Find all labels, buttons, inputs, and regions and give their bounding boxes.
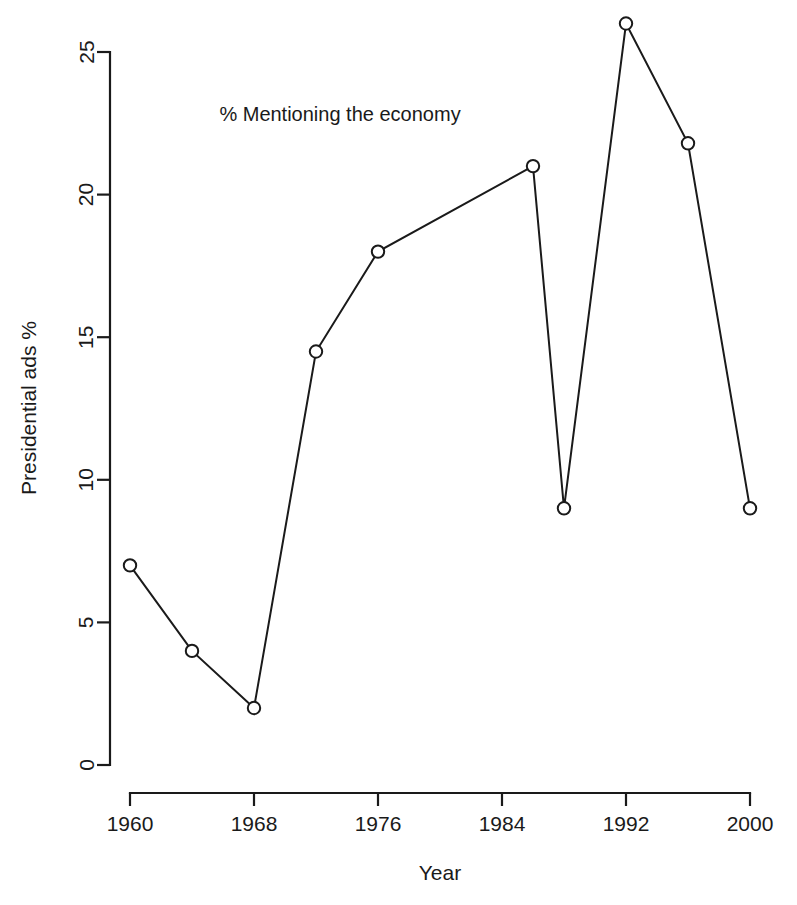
- data-point-marker: [620, 17, 632, 29]
- x-axis-tick-label: 1984: [479, 812, 526, 835]
- data-point-marker: [310, 345, 322, 357]
- data-point-marker: [248, 702, 260, 714]
- data-point-marker: [744, 502, 756, 514]
- y-axis-tick-label: 10: [75, 468, 98, 491]
- economy-mentions-line-chart: % Mentioning the economy Presidential ad…: [0, 0, 797, 905]
- y-axis-tick-label: 25: [75, 40, 98, 63]
- x-axis-tick-label: 1968: [231, 812, 278, 835]
- data-point-marker: [558, 502, 570, 514]
- y-axis-title: Presidential ads %: [17, 321, 40, 495]
- x-axis-title: Year: [419, 861, 461, 884]
- data-point-marker: [186, 645, 198, 657]
- data-point-marker: [682, 137, 694, 149]
- x-axis-tick-label: 1976: [355, 812, 402, 835]
- y-axis-tick-label: 15: [75, 326, 98, 349]
- data-point-marker: [124, 559, 136, 571]
- x-axis-tick-label: 1992: [603, 812, 650, 835]
- x-axis-tick-label: 1960: [107, 812, 154, 835]
- y-axis-tick-label: 5: [75, 617, 98, 629]
- x-axis-tick-label: 2000: [727, 812, 774, 835]
- y-axis: 0510152025: [75, 40, 111, 771]
- y-axis-tick-label: 20: [75, 183, 98, 206]
- series-line: [130, 24, 750, 709]
- chart-canvas: % Mentioning the economy Presidential ad…: [0, 0, 797, 905]
- y-axis-tick-label: 0: [75, 759, 98, 771]
- data-point-marker: [527, 160, 539, 172]
- data-point-marker: [372, 245, 384, 257]
- x-axis: 196019681976198419922000: [107, 793, 774, 835]
- chart-title: % Mentioning the economy: [219, 103, 460, 125]
